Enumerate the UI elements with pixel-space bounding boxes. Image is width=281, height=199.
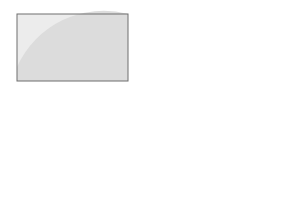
drill-diagram — [0, 0, 281, 199]
